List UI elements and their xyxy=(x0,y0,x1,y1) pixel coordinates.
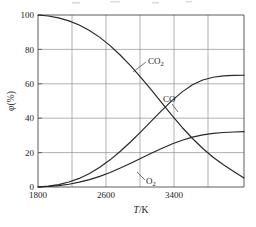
x-axis-title: T/K xyxy=(134,205,149,215)
y-tick-label-100: 100 xyxy=(21,10,35,20)
y-axis-title: φ(%) xyxy=(6,91,17,111)
y-tick-label-40: 40 xyxy=(25,113,35,123)
series-label-co: CO xyxy=(163,94,176,104)
x-tick-label-2600: 2600 xyxy=(97,190,116,200)
y-tick-label-20: 20 xyxy=(25,148,35,158)
chart-canvas: 100 80 60 40 20 0 1800 2600 3400 T/K φ(%… xyxy=(0,0,256,227)
x-tick-label-3400: 3400 xyxy=(165,190,184,200)
y-tick-label-60: 60 xyxy=(25,79,35,89)
y-tick-label-80: 80 xyxy=(25,45,35,55)
chart-figure: 100 80 60 40 20 0 1800 2600 3400 T/K φ(%… xyxy=(0,0,256,227)
x-tick-label-1800: 1800 xyxy=(29,190,48,200)
